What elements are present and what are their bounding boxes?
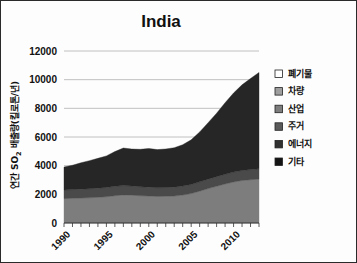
legend-label-차량: 차량 [288,85,305,96]
chart-title: India [141,12,181,31]
legend-swatch-주거 [275,123,283,131]
chart-legend: 폐기물차량산업주거에너지기타 [275,68,312,167]
legend-label-기타: 기타 [288,156,305,167]
x-tick-label-2010: 2010 [219,228,243,252]
legend-swatch-폐기물 [275,70,283,78]
x-tick-label-2005: 2005 [176,228,200,252]
chart-figure: India 020004000600080001000012000 199019… [0,0,357,263]
x-tick-label-1995: 1995 [91,228,115,252]
y-tick-label-8000: 8000 [35,103,58,114]
y-tick-label-0: 0 [51,218,57,229]
y-axis-title: 연간 SO2 배출량(킬로톤/년) [9,81,23,189]
legend-label-산업: 산업 [288,103,304,114]
legend-label-주거: 주거 [288,120,304,131]
x-tick-label-1990: 1990 [49,228,73,252]
y-tick-label-2000: 2000 [35,189,58,200]
x-axis-tick-labels: 19901995200020052010 [49,228,242,252]
legend-item-에너지: 에너지 [275,138,312,149]
y-tick-label-12000: 12000 [29,46,57,57]
legend-item-산업: 산업 [275,103,304,114]
legend-item-주거: 주거 [275,120,304,131]
y-axis-title-group: 연간 SO2 배출량(킬로톤/년) [9,81,23,189]
legend-swatch-차량 [275,88,283,96]
legend-swatch-산업 [275,105,283,113]
x-tick-label-2000: 2000 [134,228,158,252]
legend-item-폐기물: 폐기물 [275,68,312,79]
legend-swatch-에너지 [275,140,283,148]
y-tick-label-10000: 10000 [29,74,57,85]
y-axis-title-suffix: 배출량(킬로톤/년) [9,81,20,152]
area-series-layers [64,73,259,224]
legend-swatch-기타 [275,158,283,166]
legend-label-폐기물: 폐기물 [288,68,312,79]
legend-item-차량: 차량 [275,85,305,96]
y-axis-tick-labels: 020004000600080001000012000 [29,46,57,229]
y-tick-label-4000: 4000 [35,160,58,171]
area-series-주거 [64,73,259,191]
legend-label-에너지: 에너지 [288,138,312,149]
y-axis-title-prefix: 연간 SO [9,156,20,190]
x-axis-ticks [64,223,259,227]
legend-item-기타: 기타 [275,156,305,167]
chart-title-group: India [141,12,181,31]
stacked-area-chart: India 020004000600080001000012000 199019… [1,1,357,263]
y-tick-label-6000: 6000 [35,132,58,143]
